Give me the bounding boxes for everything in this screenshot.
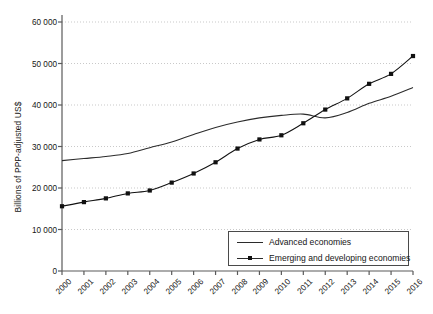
legend-label: Advanced economies bbox=[265, 237, 351, 247]
data-point-marker bbox=[345, 96, 349, 100]
legend-line-icon bbox=[235, 236, 265, 248]
data-point-marker bbox=[279, 133, 283, 137]
data-point-marker bbox=[257, 137, 261, 141]
legend-line-marker-icon bbox=[235, 252, 265, 264]
legend-item[interactable]: Advanced economies bbox=[229, 234, 408, 250]
data-point-marker bbox=[323, 107, 327, 111]
data-point-marker bbox=[235, 146, 239, 150]
data-point-marker bbox=[301, 121, 305, 125]
data-point-marker bbox=[148, 188, 152, 192]
data-point-marker bbox=[367, 82, 371, 86]
series-line-2 bbox=[62, 56, 413, 206]
line-chart: Billions of PPP-adjusted US$ 010 00020 0… bbox=[0, 0, 433, 314]
data-point-marker bbox=[192, 171, 196, 175]
data-point-marker bbox=[389, 72, 393, 76]
data-point-marker bbox=[126, 191, 130, 195]
plot-area bbox=[0, 0, 433, 314]
legend-label: Emerging and developing economies bbox=[265, 253, 410, 263]
data-point-marker bbox=[411, 54, 415, 58]
data-point-marker bbox=[60, 204, 64, 208]
chart-legend: Advanced economiesEmerging and developin… bbox=[228, 231, 409, 266]
legend-item[interactable]: Emerging and developing economies bbox=[229, 250, 408, 266]
data-point-marker bbox=[170, 181, 174, 185]
data-point-marker bbox=[213, 160, 217, 164]
data-point-marker bbox=[82, 200, 86, 204]
data-point-marker bbox=[104, 196, 108, 200]
